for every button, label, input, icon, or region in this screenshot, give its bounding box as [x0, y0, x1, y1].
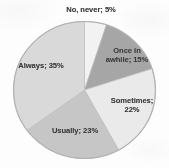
pie-slice-label-usually: Usually; 23%: [40, 127, 110, 136]
pie-chart: No, never; 5% Once in awhile; 15% Someti…: [0, 0, 169, 168]
pie-chart-canvas: [0, 0, 169, 168]
pie-slice-label-no-never: No, never; 5%: [52, 6, 130, 15]
pie-slice-label-sometimes: Sometimes; 22%: [100, 97, 164, 114]
pie-slice-label-once-in-awhile: Once in awhile; 15%: [96, 47, 158, 64]
pie-slice-label-always: Always; 35%: [6, 62, 76, 71]
pie-slice-group: [14, 22, 156, 159]
